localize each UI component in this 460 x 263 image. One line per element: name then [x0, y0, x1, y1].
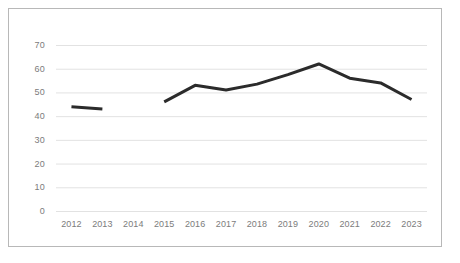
y-axis-label-60: 60 [23, 64, 45, 74]
x-axis-label-2022: 2022 [364, 219, 398, 230]
x-axis-label-2012: 2012 [54, 219, 88, 230]
chart-plot-area: 010203040506070 201220132014201520162017… [9, 9, 443, 248]
x-axis-label-2015: 2015 [147, 219, 181, 230]
x-axis-label-2019: 2019 [271, 219, 305, 230]
y-axis-label-20: 20 [23, 159, 45, 169]
data-series-group [71, 64, 411, 109]
y-axis-label-0: 0 [23, 206, 45, 216]
x-axis-label-2020: 2020 [302, 219, 336, 230]
chart-frame: 010203040506070 201220132014201520162017… [8, 8, 442, 247]
y-axis-label-70: 70 [23, 40, 45, 50]
x-axis-label-2021: 2021 [333, 219, 367, 230]
x-axis-label-2023: 2023 [395, 219, 429, 230]
x-axis-label-2018: 2018 [240, 219, 274, 230]
y-axis-label-50: 50 [23, 87, 45, 97]
data-line-segment-1 [71, 107, 102, 109]
x-axis-label-2017: 2017 [209, 219, 243, 230]
line-chart-canvas [9, 9, 443, 248]
x-axis-label-2013: 2013 [85, 219, 119, 230]
x-axis-label-2014: 2014 [116, 219, 150, 230]
gridlines-group [56, 46, 427, 212]
y-axis-label-10: 10 [23, 182, 45, 192]
y-axis-label-30: 30 [23, 135, 45, 145]
x-axis-label-2016: 2016 [178, 219, 212, 230]
y-axis-label-40: 40 [23, 111, 45, 121]
